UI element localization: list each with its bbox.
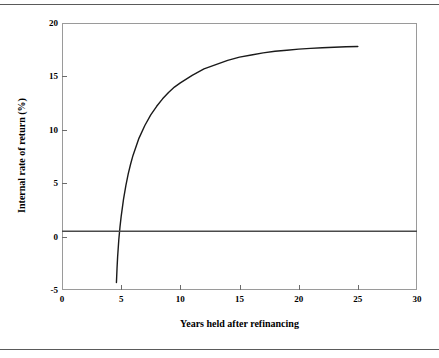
x-axis-tick-label: 20 — [279, 295, 319, 304]
irr-curve — [116, 47, 357, 283]
x-axis-tick-label: 30 — [397, 295, 437, 304]
chart-figure: -505101520 051015202530 Years held after… — [0, 0, 439, 358]
y-axis-tick-label: 20 — [12, 19, 58, 28]
y-axis-title: Internal rate of return (%) — [16, 61, 27, 251]
x-axis-tick-label: 0 — [42, 295, 82, 304]
y-axis-tick-labels: -505101520 — [0, 0, 58, 358]
y-axis-tick-label: -5 — [12, 286, 58, 295]
x-axis-tick-label: 5 — [101, 295, 141, 304]
x-axis-title: Years held after refinancing — [62, 318, 417, 329]
x-axis-tick-label: 10 — [160, 295, 200, 304]
x-axis-tick-label: 25 — [338, 295, 378, 304]
x-axis-tick-label: 15 — [220, 295, 260, 304]
plot-canvas — [62, 23, 417, 290]
